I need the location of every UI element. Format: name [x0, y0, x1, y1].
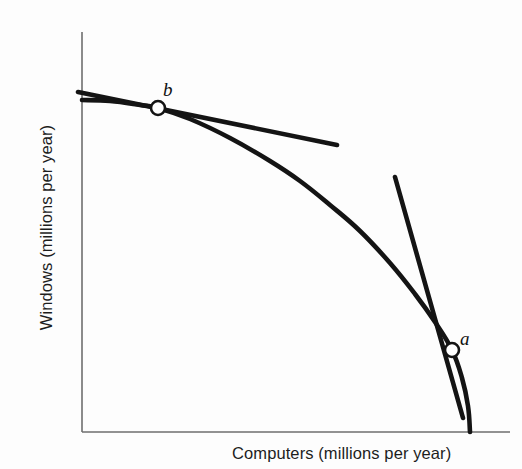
point-marker-b	[151, 101, 165, 115]
ppf-curve	[82, 100, 470, 432]
y-axis-label: Windows (millions per year)	[37, 78, 56, 378]
tangent-line-at-a	[395, 177, 463, 418]
x-axis-label: Computers (millions per year)	[232, 444, 451, 463]
point-label-b: b	[163, 79, 173, 101]
ppf-chart-figure: b a Windows (millions per year) Computer…	[0, 0, 522, 469]
point-marker-a	[445, 343, 459, 357]
point-label-a: a	[460, 328, 470, 350]
chart-plot-area	[0, 0, 522, 469]
